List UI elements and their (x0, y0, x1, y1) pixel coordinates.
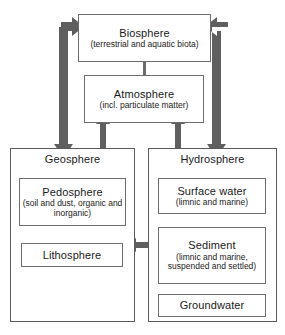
geosphere-compartment[interactable] (10, 148, 135, 322)
groundwater-title: Groundwater (180, 299, 245, 311)
lithosphere-title: Lithosphere (43, 249, 102, 261)
environmental-compartments-diagram: Geosphere Hydrosphere Biosphere (terrest… (0, 0, 285, 335)
pedosphere-title: Pedosphere (42, 186, 102, 198)
biosphere-box[interactable]: Biosphere (terrestrial and aquatic biota… (78, 14, 211, 62)
groundwater-box[interactable]: Groundwater (158, 294, 266, 317)
pedosphere-box[interactable]: Pedosphere (soil and dust, organic and i… (19, 178, 126, 226)
hydrosphere-label: Hydrosphere (148, 153, 277, 165)
biosphere-subtitle: (terrestrial and aquatic biota) (90, 40, 198, 50)
atmosphere-box[interactable]: Atmosphere (incl. particulate matter) (84, 75, 204, 123)
pedosphere-subtitle: (soil and dust, organic and inorganic) (20, 199, 125, 218)
sediment-box[interactable]: Sediment (limnic and marine, suspended a… (158, 227, 266, 284)
surface-water-box[interactable]: Surface water (limnic and marine) (158, 178, 266, 214)
atmosphere-subtitle: (incl. particulate matter) (100, 101, 189, 111)
surface-water-subtitle: (limnic and marine) (176, 198, 248, 208)
surface-water-title: Surface water (177, 185, 246, 197)
lithosphere-box[interactable]: Lithosphere (21, 243, 123, 267)
sediment-subtitle: (limnic and marine, suspended and settle… (159, 253, 265, 272)
biosphere-title: Biosphere (119, 27, 169, 39)
sediment-title: Sediment (188, 239, 235, 251)
geosphere-label: Geosphere (10, 153, 135, 165)
atmosphere-title: Atmosphere (114, 88, 174, 100)
